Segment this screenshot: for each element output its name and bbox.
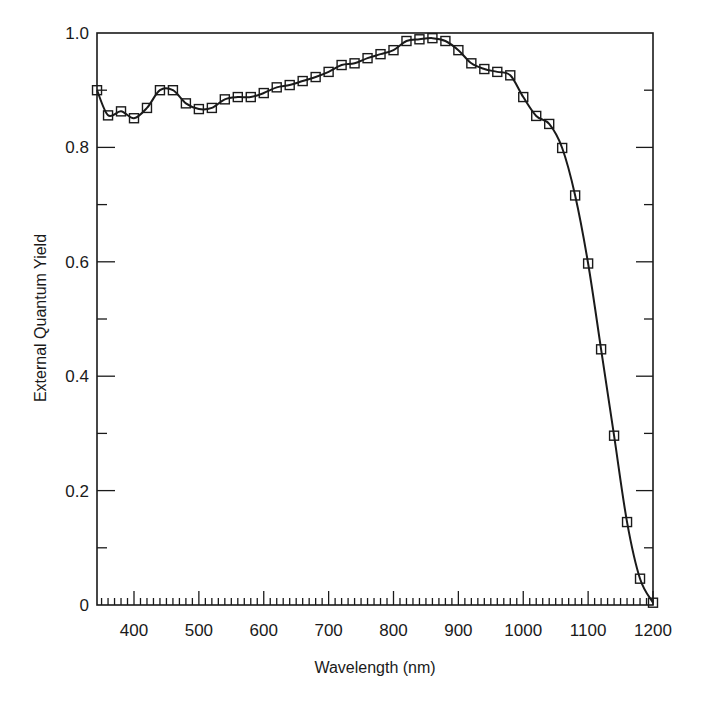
series-line <box>97 38 653 603</box>
x-tick-label: 1000 <box>504 621 542 640</box>
y-tick-label: 0.6 <box>65 253 89 272</box>
y-tick-label: 0 <box>80 596 89 615</box>
x-tick-label: 900 <box>444 621 472 640</box>
plot-border <box>97 33 653 605</box>
y-axis-title: External Quantum Yield <box>32 234 49 402</box>
data-series <box>93 34 658 608</box>
y-axis-tick-labels: 00.20.40.60.81.0 <box>65 24 89 615</box>
y-tick-label: 0.8 <box>65 138 89 157</box>
y-axis-ticks <box>97 90 653 548</box>
x-tick-label: 600 <box>250 621 278 640</box>
y-tick-label: 1.0 <box>65 24 89 43</box>
y-tick-label: 0.4 <box>65 367 89 386</box>
plot-frame <box>97 33 653 605</box>
x-axis-title: Wavelength (nm) <box>314 659 435 676</box>
x-tick-label: 1200 <box>634 621 672 640</box>
quantum-yield-chart: 400500600700800900100011001200 00.20.40.… <box>0 0 701 705</box>
x-axis-ticks <box>102 591 653 605</box>
x-tick-label: 800 <box>379 621 407 640</box>
x-tick-label: 500 <box>185 621 213 640</box>
x-tick-label: 1100 <box>570 621 607 640</box>
y-tick-label: 0.2 <box>65 482 89 501</box>
x-tick-label: 700 <box>314 621 342 640</box>
x-tick-label: 400 <box>120 621 148 640</box>
x-axis-tick-labels: 400500600700800900100011001200 <box>120 621 672 640</box>
